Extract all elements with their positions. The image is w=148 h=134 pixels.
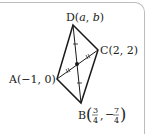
svg-text:(: ( (86, 105, 92, 124)
label-d: D(a, b) (66, 11, 104, 24)
svg-text:,: , (100, 109, 104, 122)
label-b: B ( 3 4 , − 7 4 ) (78, 105, 126, 125)
svg-text:3: 3 (93, 106, 98, 115)
label-a: A(−1, 0) (8, 73, 56, 86)
label-c: C(2, 2) (100, 44, 138, 57)
intersection-point (75, 62, 79, 66)
svg-text:B: B (78, 109, 86, 122)
svg-text:4: 4 (114, 116, 119, 125)
parallelogram-diagram: D(a, b) C(2, 2) A(−1, 0) B ( 3 4 , − 7 4… (0, 0, 148, 134)
svg-text:−: − (105, 108, 114, 121)
svg-text:): ) (120, 105, 126, 124)
svg-text:7: 7 (114, 106, 119, 115)
svg-text:4: 4 (93, 116, 98, 125)
